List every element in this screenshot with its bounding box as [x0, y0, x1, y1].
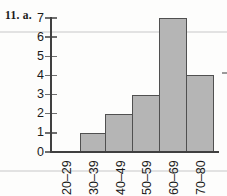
plot-area: 0123456720–2930–3940–4950–5960–6970–80 [0, 0, 227, 196]
y-tick-label: 0 [24, 145, 44, 160]
x-category-label: 50–59 [140, 155, 154, 195]
y-tick-label: 4 [24, 68, 44, 83]
bar [105, 114, 133, 154]
x-category-label: 70–80 [194, 155, 208, 195]
y-tick-label: 2 [24, 106, 44, 121]
y-axis-line [50, 17, 52, 153]
y-tick-label: 6 [24, 30, 44, 45]
histogram-figure: 11. a. 0123456720–2930–3940–4950–5960–69… [0, 0, 227, 196]
bar [159, 18, 187, 153]
x-category-label: 40–49 [114, 155, 128, 195]
x-category-label: 30–39 [87, 155, 101, 195]
exercise-label: 11. a. [5, 9, 32, 21]
y-tick-label: 3 [24, 87, 44, 102]
y-tick-label: 1 [24, 125, 44, 140]
bar [132, 95, 160, 154]
y-tick-label: 5 [24, 49, 44, 64]
bar [186, 75, 214, 153]
x-category-label: 60–69 [167, 155, 181, 195]
x-category-label: 20–29 [60, 155, 74, 195]
x-axis-line [50, 151, 219, 153]
